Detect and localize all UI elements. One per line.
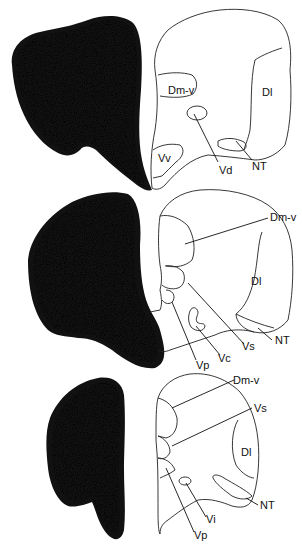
label-dl: Dl xyxy=(241,446,251,458)
label-nt: NT xyxy=(260,499,275,511)
stippled-section-middle xyxy=(28,192,164,368)
leader-lines-middle xyxy=(172,218,272,360)
stippled-section-top xyxy=(12,16,152,190)
panel-top: Dm-v Dl Vv Vd NT xyxy=(12,9,291,190)
label-nt: NT xyxy=(275,334,290,346)
label-vd: Vd xyxy=(219,164,232,176)
label-nt: NT xyxy=(252,160,267,172)
panel-middle: Dm-v Dl NT Vs Vc Vp xyxy=(28,190,297,371)
label-vs: Vs xyxy=(254,402,267,414)
label-vc: Vc xyxy=(218,352,231,364)
label-vp: Vp xyxy=(196,359,209,371)
label-vp: Vp xyxy=(194,529,207,541)
outline-schematic-top xyxy=(151,9,291,189)
brain-sections-figure: Dm-v Dl Vv Vd NT Dm-v Dl xyxy=(0,0,302,551)
panel-bottom: Dm-v Vs Dl Vi NT Vp xyxy=(46,374,275,541)
label-vv: Vv xyxy=(158,152,171,164)
label-vs: Vs xyxy=(242,340,255,352)
label-dm-v: Dm-v xyxy=(233,374,260,386)
leader-lines-top xyxy=(194,114,252,162)
stippled-section-bottom xyxy=(46,378,125,540)
label-vi: Vi xyxy=(206,513,216,525)
label-dm-v: Dm-v xyxy=(270,211,297,223)
label-dl: Dl xyxy=(262,86,272,98)
label-dl: Dl xyxy=(251,275,261,287)
label-dm-v: Dm-v xyxy=(168,84,195,96)
